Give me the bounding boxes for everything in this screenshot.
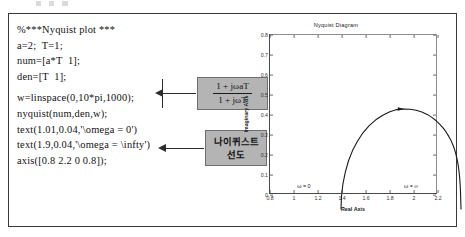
y-axis-label: Imaginary Axis [243, 96, 249, 133]
chart-title: Nyquist Diagram [222, 22, 450, 28]
nyquist-chart: Nyquist Diagram 00.10.20.30.40.50.60.70.… [222, 20, 450, 220]
x-tick-label: 1 [293, 195, 296, 201]
code-line: %***Nyquist plot *** [17, 22, 213, 38]
y-tick-label: 0.3 [261, 132, 268, 138]
x-tick-label: 0.8 [266, 195, 273, 201]
y-tick-mark [270, 155, 273, 156]
x-tick-mark [390, 35, 391, 38]
omega-zero-label: ω = 0 [297, 183, 310, 189]
x-tick-mark [414, 35, 415, 38]
y-tick-mark [270, 75, 273, 76]
figure-frame: %***Nyquist plot *** a=2; T=1; num=[a*T … [8, 13, 457, 227]
code-line: axis([0.8 2.2 0 0.8]); [17, 153, 213, 169]
x-tick-mark [438, 35, 439, 38]
y-tick-label: 0.1 [261, 172, 268, 178]
code-line: text(1.9,0.04,'\omega = \infty') [17, 137, 213, 153]
x-tick-mark [318, 35, 319, 38]
code-line: num=[a*T 1]; [17, 53, 213, 69]
code-line: nyquist(num,den,w); [17, 106, 213, 122]
y-tick-label: 0.7 [261, 52, 268, 58]
korean-leader-line [166, 148, 204, 149]
matlab-code-listing: %***Nyquist plot *** a=2; T=1; num=[a*T … [17, 22, 213, 168]
y-axis-line [269, 34, 270, 194]
y-tick-mark [270, 55, 273, 56]
scan-artifact [36, 1, 70, 6]
nyquist-curve-svg [317, 49, 465, 209]
korean-arrow-icon [158, 144, 166, 152]
y-tick-label: 0.4 [261, 112, 268, 118]
code-line: text(1.01,0.04,'\omega = 0') [17, 122, 213, 138]
y-tick-label: 0.6 [261, 72, 268, 78]
code-line: den=[T 1]; [17, 69, 213, 85]
y-tick-mark [270, 115, 273, 116]
figure-page: %***Nyquist plot *** a=2; T=1; num=[a*T … [0, 0, 465, 237]
code-line: a=2; T=1; [17, 38, 213, 54]
formula-leader-line [163, 93, 196, 94]
plot-area: 00.10.20.30.40.50.60.70.8 0.811.21.41.61… [269, 34, 437, 194]
omega-infinity-label: ω = ∞ [404, 183, 418, 189]
y-tick-mark [270, 135, 273, 136]
y-tick-label: 0.8 [261, 32, 268, 38]
x-tick-mark [366, 35, 367, 38]
direction-arrow-icon [398, 107, 405, 110]
x-axis-label: Real Axis [269, 206, 437, 212]
formula-arrow-icon [155, 89, 163, 97]
y-tick-label: 0.5 [261, 92, 268, 98]
y-tick-mark [270, 35, 273, 36]
x-tick-mark [342, 35, 343, 38]
y-tick-mark [433, 35, 436, 36]
y-tick-mark [270, 95, 273, 96]
x-axis-line [269, 193, 437, 194]
y-tick-label: 0.2 [261, 152, 268, 158]
x-tick-mark [294, 35, 295, 38]
y-tick-mark [270, 175, 273, 176]
